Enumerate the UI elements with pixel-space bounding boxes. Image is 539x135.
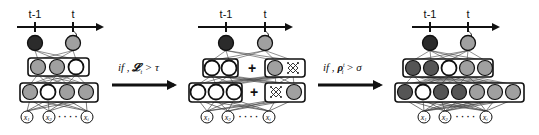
hidden-1-node-white — [209, 85, 224, 100]
new-unit-placeholder-dot — [297, 72, 299, 74]
hidden-2-node-mid_dark — [424, 61, 439, 76]
tick-label-t: t — [263, 8, 266, 20]
hidden-1-node-mid_dark — [398, 85, 413, 100]
hidden-1-node-gray — [287, 85, 302, 100]
output-node-current — [66, 36, 81, 51]
diagram-canvas: t-1tx1x2xi· · · ·t-1t++x1x2xi· · · ·t-1t… — [0, 0, 539, 135]
tick-label-t-minus-1: t-1 — [29, 8, 42, 20]
hidden-2-node-gray — [478, 61, 493, 76]
hidden-2-node-gray — [460, 61, 475, 76]
transition-rho: if , ρti > σ — [318, 61, 380, 85]
new-unit-placeholder-dot — [270, 96, 272, 98]
new-unit-placeholder-dot — [287, 62, 289, 64]
hidden-1-node-gray — [470, 85, 485, 100]
ellipsis: · · · · — [456, 112, 476, 122]
new-unit-placeholder-dot — [280, 86, 282, 88]
hidden-1-node-mid_dark — [434, 85, 449, 100]
hidden-1-node-mid_dark — [452, 85, 467, 100]
new-unit-placeholder-dot — [297, 62, 299, 64]
condition-label: if , 𝓛t > τ — [118, 61, 160, 75]
output-node-current — [258, 36, 273, 51]
output-node-prev — [28, 36, 43, 51]
hidden-2-node-gray — [31, 60, 46, 75]
condition-label: if , ρti > σ — [323, 61, 362, 75]
transition-loss: if , 𝓛t > τ — [112, 61, 174, 85]
hidden-1-node-gray — [488, 85, 503, 100]
hidden-2-node-white — [442, 61, 457, 76]
hidden-1-node-gray — [506, 85, 521, 100]
tick-label-t-minus-1: t-1 — [220, 8, 233, 20]
ellipsis: · · · · — [239, 112, 259, 122]
hidden-2-node-white — [69, 60, 84, 75]
hidden-2-node-gray — [50, 60, 65, 75]
hidden-2-node-white — [205, 61, 220, 76]
new-unit-placeholder-dot — [270, 86, 272, 88]
hidden-1-node-white — [191, 85, 206, 100]
output-node-prev — [423, 36, 438, 51]
hidden-1-node-white — [416, 85, 431, 100]
hidden-2-node-white — [222, 61, 237, 76]
new-unit-placeholder-dot — [280, 96, 282, 98]
ellipsis: · · · · — [58, 112, 78, 122]
tick-label-t-minus-1: t-1 — [424, 8, 437, 20]
hidden-1-node-white — [41, 85, 56, 100]
hidden-2-node-gray — [268, 61, 283, 76]
output-node-prev — [219, 36, 234, 51]
output-node-current — [461, 36, 476, 51]
hidden-1-node-white — [227, 85, 242, 100]
tick-label-t: t — [466, 8, 469, 20]
plus-sign: + — [248, 60, 256, 76]
tick-label-t: t — [71, 8, 74, 20]
hidden-1-node-gray — [23, 85, 38, 100]
hidden-1-node-gray — [79, 85, 94, 100]
plus-sign: + — [250, 84, 258, 100]
new-unit-placeholder-dot — [287, 72, 289, 74]
network-growth-diagram: t-1tx1x2xi· · · ·t-1t++x1x2xi· · · ·t-1t… — [0, 0, 539, 135]
hidden-1-node-gray — [60, 85, 75, 100]
hidden-2-node-mid_dark — [406, 61, 421, 76]
